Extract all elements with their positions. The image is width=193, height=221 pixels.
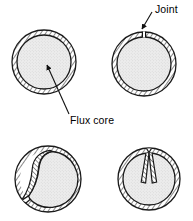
joint-leader-line bbox=[142, 12, 152, 29]
section-lap-seam bbox=[15, 146, 81, 212]
cross-section-diagram: Joint Flux core bbox=[0, 0, 193, 221]
section-closed-butt bbox=[12, 30, 76, 94]
flux-core-fill bbox=[123, 153, 175, 205]
section-folded-seam bbox=[118, 148, 180, 210]
flux-cored-wire-figure: Joint Flux core bbox=[0, 0, 193, 221]
section-butt-joint bbox=[112, 32, 176, 97]
flux-core-label: Flux core bbox=[70, 114, 114, 126]
flux-core-fill bbox=[117, 37, 171, 91]
joint-label: Joint bbox=[155, 3, 178, 15]
flux-core-fill bbox=[17, 35, 71, 89]
